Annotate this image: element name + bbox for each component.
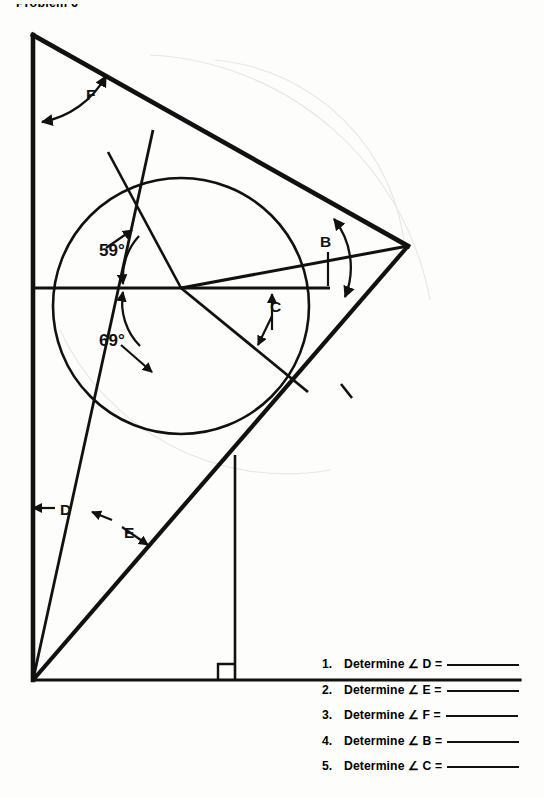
angle-arc-59 — [123, 236, 139, 284]
angle-arrow-E-left — [92, 512, 112, 520]
question-number: 3. — [322, 708, 344, 722]
list-item: 4. Determine ∠ B = — [322, 734, 536, 748]
angle-arc-69 — [122, 292, 140, 346]
list-item: 2. Determine ∠ E = — [322, 683, 536, 697]
question-number: 4. — [322, 734, 344, 748]
angle-arrow-C-down — [258, 316, 272, 345]
ghost-construction-arcs — [60, 55, 430, 474]
leader-69 — [121, 345, 152, 372]
angle-label-D: D — [60, 501, 71, 518]
angle-label-B: B — [320, 233, 331, 250]
question-text: Determine ∠ C = — [344, 759, 442, 773]
list-item: 1. Determine ∠ D = — [322, 657, 536, 671]
question-list: 1. Determine ∠ D = 2. Determine ∠ E = 3.… — [322, 657, 536, 785]
answer-blank[interactable] — [447, 690, 519, 692]
question-text: Determine ∠ E = — [344, 683, 442, 697]
list-item: 5. Determine ∠ C = — [322, 759, 536, 773]
question-number: 1. — [322, 657, 344, 671]
angle-label-69: 69° — [99, 331, 125, 350]
answer-blank[interactable] — [447, 664, 519, 666]
question-text: Determine ∠ D = — [344, 657, 442, 671]
angle-label-F: F — [86, 86, 95, 103]
question-number: 5. — [322, 759, 344, 773]
angle-label-59: 59° — [99, 241, 125, 260]
diagonal-bottomleft-to-right — [33, 246, 408, 680]
angle-arc-F — [42, 76, 106, 122]
answer-blank[interactable] — [447, 766, 519, 768]
question-text: Determine ∠ B = — [344, 734, 442, 748]
question-number: 2. — [322, 683, 344, 697]
main-triangle — [33, 35, 520, 680]
right-angle-marker — [218, 664, 235, 680]
tangent-tick-mark — [341, 384, 352, 398]
question-text: Determine ∠ F = — [344, 708, 441, 722]
angle-label-E: E — [124, 524, 134, 541]
answer-blank[interactable] — [447, 741, 519, 743]
answer-blank[interactable] — [446, 715, 518, 717]
worksheet-page: Problem 6 — [0, 0, 544, 797]
chord-hub-to-right-vertex — [181, 246, 408, 288]
ray-69-lower — [181, 288, 308, 392]
angle-label-C: C — [270, 298, 281, 315]
list-item: 3. Determine ∠ F = — [322, 708, 536, 722]
